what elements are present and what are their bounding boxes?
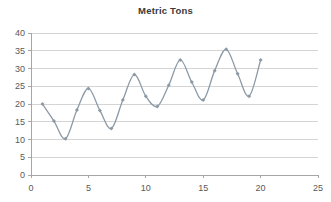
x-tick-label: 10 <box>141 183 151 193</box>
y-tick-label: 0 <box>20 170 25 180</box>
series-line-group <box>42 49 260 139</box>
x-tick-label: 5 <box>86 183 91 193</box>
x-tick-label: 25 <box>313 183 323 193</box>
data-point-marker <box>213 69 217 73</box>
gridlines-group <box>31 33 318 157</box>
data-point-marker <box>75 108 79 112</box>
axis-lines-group <box>28 33 318 178</box>
x-axis-tick-labels: 0510152025 <box>28 183 323 193</box>
data-point-marker <box>259 58 263 62</box>
y-tick-label: 20 <box>15 99 25 109</box>
series-marker-group <box>40 47 262 140</box>
data-point-marker <box>121 98 125 102</box>
y-tick-label: 30 <box>15 64 25 74</box>
y-tick-label: 10 <box>15 135 25 145</box>
y-tick-label: 25 <box>15 81 25 91</box>
x-tick-label: 15 <box>198 183 208 193</box>
y-tick-label: 35 <box>15 46 25 56</box>
x-tick-label: 20 <box>256 183 266 193</box>
chart-plot-area: 0510152025303540 0510152025 <box>0 0 331 202</box>
data-point-marker <box>236 72 240 76</box>
series-line-0 <box>42 49 260 139</box>
x-tick-label: 0 <box>28 183 33 193</box>
chart-container: Metric Tons 0510152025303540 0510152025 <box>0 0 331 202</box>
y-tick-label: 15 <box>15 117 25 127</box>
y-axis-tick-labels: 0510152025303540 <box>15 28 25 180</box>
y-tick-label: 40 <box>15 28 25 38</box>
y-tick-label: 5 <box>20 152 25 162</box>
